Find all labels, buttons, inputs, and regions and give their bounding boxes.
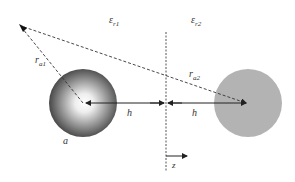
z-axis-label: z <box>171 160 176 170</box>
observation-point-arrowhead <box>19 24 27 32</box>
sphere-a-label: a <box>63 135 68 146</box>
epsilon-r2-label: εr2 <box>191 14 202 28</box>
r-a1-label: ra1 <box>35 54 46 68</box>
r-a2-label: ra2 <box>189 68 200 82</box>
h-left-label: h <box>127 107 132 118</box>
h-right-label: h <box>192 107 197 118</box>
epsilon-r1-label: εr1 <box>109 14 119 28</box>
image-charge-diagram: εr1 εr2 ra1 ra2 h h a z <box>0 0 295 182</box>
